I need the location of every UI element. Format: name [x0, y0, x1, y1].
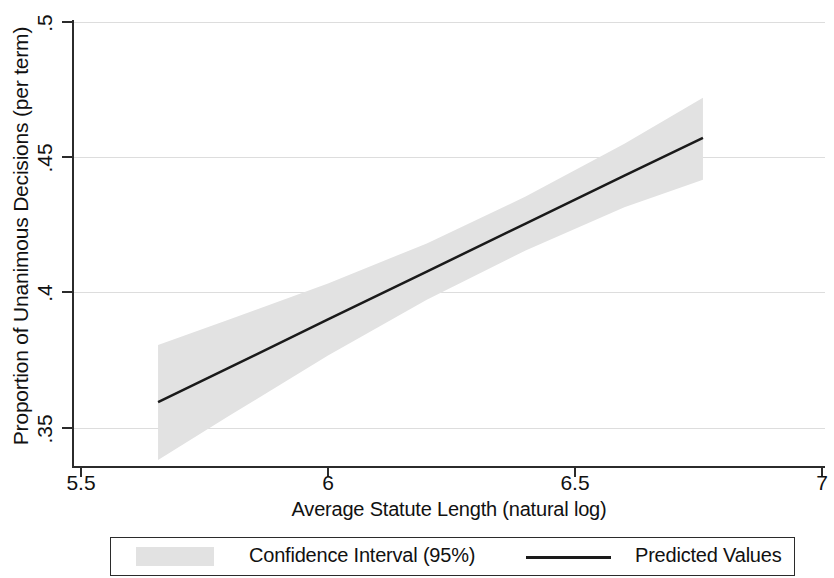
plot-area [0, 0, 834, 578]
confidence-interval-band [158, 98, 703, 460]
legend-line-icon-predicted-values [526, 556, 611, 559]
legend-label-confidence-interval: Confidence Interval (95%) [249, 544, 475, 567]
y-tick-label-0.4: .4 [33, 263, 57, 323]
legend-label-predicted-values: Predicted Values [635, 544, 782, 567]
y-tick-0.4 [62, 291, 73, 293]
x-tick-label-7: 7 [782, 471, 834, 495]
y-tick-0.45 [62, 156, 73, 158]
predicted-values-line [158, 138, 703, 402]
y-axis-line [72, 20, 74, 468]
chart-legend: Confidence Interval (95%) Predicted Valu… [110, 537, 795, 576]
legend-swatch-confidence-interval [136, 547, 214, 566]
y-tick-label-0.5: .5 [33, 0, 57, 53]
x-axis-line [72, 466, 825, 468]
y-tick-0.35 [62, 427, 73, 429]
y-tick-0.5 [62, 21, 73, 23]
legend-rows: Confidence Interval (95%) Predicted Valu… [111, 538, 794, 575]
x-tick-label-5.5: 5.5 [41, 471, 121, 495]
y-tick-label-0.45: .45 [33, 128, 57, 188]
x-tick-label-6: 6 [288, 471, 368, 495]
chart-figure: Proportion of Unanimous Decisions (per t… [0, 0, 834, 578]
y-tick-label-0.35: .35 [33, 399, 57, 459]
x-tick-label-6.5: 6.5 [535, 471, 615, 495]
